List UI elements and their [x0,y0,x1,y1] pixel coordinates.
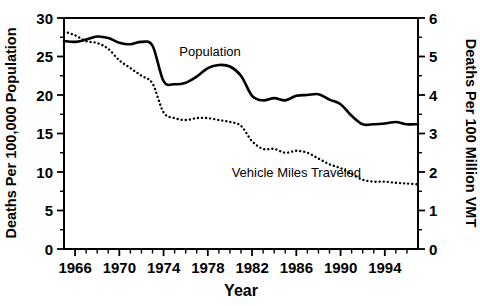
axes-frame [64,18,418,249]
x-tick-label-1986: 1986 [280,259,313,276]
series-line-population [64,36,418,124]
y-right-tick-label-3: 3 [429,125,437,142]
x-tick-label-1982: 1982 [235,259,268,276]
x-axis-title: Year [224,282,258,299]
y-axis-left-title: Deaths Per 100,000 Population [3,27,19,238]
x-tick-label-1978: 1978 [191,259,224,276]
x-tick-label-1994: 1994 [368,259,402,276]
y-left-tick-label-15: 15 [36,125,53,142]
y-left-tick-label-30: 30 [36,10,53,27]
y-left-tick-label-5: 5 [45,202,53,219]
chart-figure: 1966197019741978198219861990199405101520… [0,0,480,306]
y-left-tick-label-20: 20 [36,87,53,104]
y-left-tick-label-10: 10 [36,164,53,181]
x-tick-label-1974: 1974 [147,259,181,276]
series-annotation-vehicle-miles-traveled: Vehicle Miles Traveled [232,165,361,180]
y-left-tick-label-25: 25 [36,48,53,65]
y-right-tick-label-5: 5 [429,48,437,65]
y-axis-right-title: Deaths Per 100 Million VMT [463,39,479,228]
y-right-tick-label-6: 6 [429,10,437,27]
x-tick-label-1970: 1970 [103,259,136,276]
y-right-tick-label-2: 2 [429,164,437,181]
y-right-tick-label-1: 1 [429,202,437,219]
x-tick-label-1966: 1966 [58,259,91,276]
x-tick-label-1990: 1990 [324,259,357,276]
y-left-tick-label-0: 0 [45,241,53,258]
y-right-tick-label-4: 4 [429,87,438,104]
line-chart-svg: 1966197019741978198219861990199405101520… [0,0,480,306]
series-annotation-population: Population [179,44,240,59]
series-line-vehicle-miles-traveled [64,31,418,184]
y-right-tick-label-0: 0 [429,241,437,258]
